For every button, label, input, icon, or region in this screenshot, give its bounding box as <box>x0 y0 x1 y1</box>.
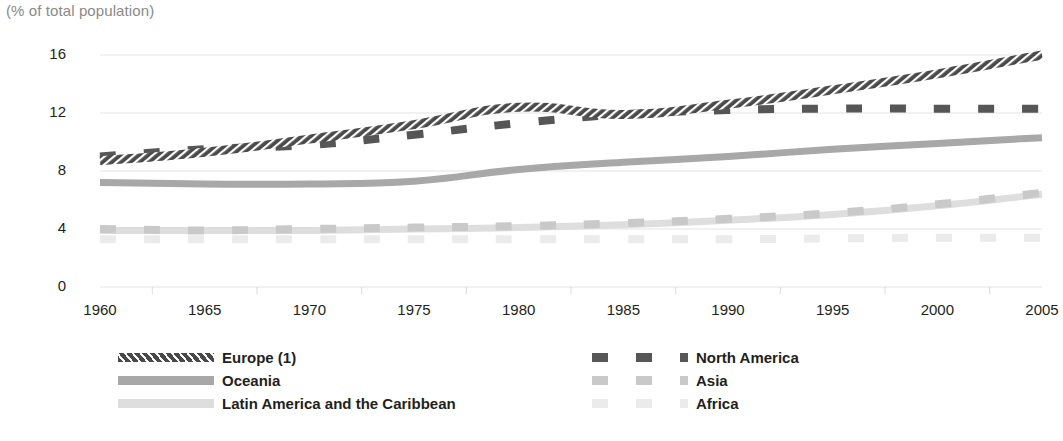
legend-swatch-icon <box>592 353 688 362</box>
x-tick-label: 1990 <box>693 301 763 318</box>
legend-swatch-icon <box>118 376 214 385</box>
x-tick-label: 1995 <box>798 301 868 318</box>
legend-item[interactable]: Latin America and the Caribbean <box>118 392 456 415</box>
legend-column-left: Europe (1)OceaniaLatin America and the C… <box>118 346 456 415</box>
legend-label: Africa <box>696 395 739 412</box>
x-tick-label: 1975 <box>379 301 449 318</box>
x-tick-label: 2005 <box>1007 301 1063 318</box>
x-tick-label: 1985 <box>588 301 658 318</box>
series-line <box>100 194 1042 230</box>
y-tick-label: 8 <box>26 161 66 178</box>
legend-label: North America <box>696 349 799 366</box>
legend-label: Latin America and the Caribbean <box>222 395 456 412</box>
x-tick-label: 1965 <box>170 301 240 318</box>
x-tick-label: 1960 <box>65 301 135 318</box>
legend-swatch-icon <box>592 376 688 385</box>
series-line <box>100 238 1042 240</box>
legend-swatch-icon <box>118 353 214 362</box>
y-axis-unit-note: (% of total population) <box>6 2 154 19</box>
legend-label: Oceania <box>222 372 280 389</box>
legend-label: Europe (1) <box>222 349 296 366</box>
y-tick-label: 16 <box>26 45 66 62</box>
x-tick-label: 1980 <box>484 301 554 318</box>
legend-item[interactable]: Oceania <box>118 369 456 392</box>
gridlines <box>100 55 1042 287</box>
legend-item[interactable]: Asia <box>592 369 799 392</box>
y-tick-label: 4 <box>26 219 66 236</box>
y-tick-label: 12 <box>26 103 66 120</box>
y-tick-label: 0 <box>26 277 66 294</box>
x-tick-label: 2000 <box>902 301 972 318</box>
legend-label: Asia <box>696 372 728 389</box>
legend-item[interactable]: Africa <box>592 392 799 415</box>
data-series-layer <box>100 55 1042 239</box>
legend-item[interactable]: North America <box>592 346 799 369</box>
legend-column-right: North AmericaAsiaAfrica <box>592 346 799 415</box>
legend-swatch-icon <box>118 399 214 408</box>
legend-item[interactable]: Europe (1) <box>118 346 456 369</box>
legend-swatch-icon <box>592 399 688 408</box>
chart-legend: Europe (1)OceaniaLatin America and the C… <box>0 346 1055 426</box>
x-tick-label: 1970 <box>274 301 344 318</box>
x-axis-ticks <box>152 287 989 294</box>
